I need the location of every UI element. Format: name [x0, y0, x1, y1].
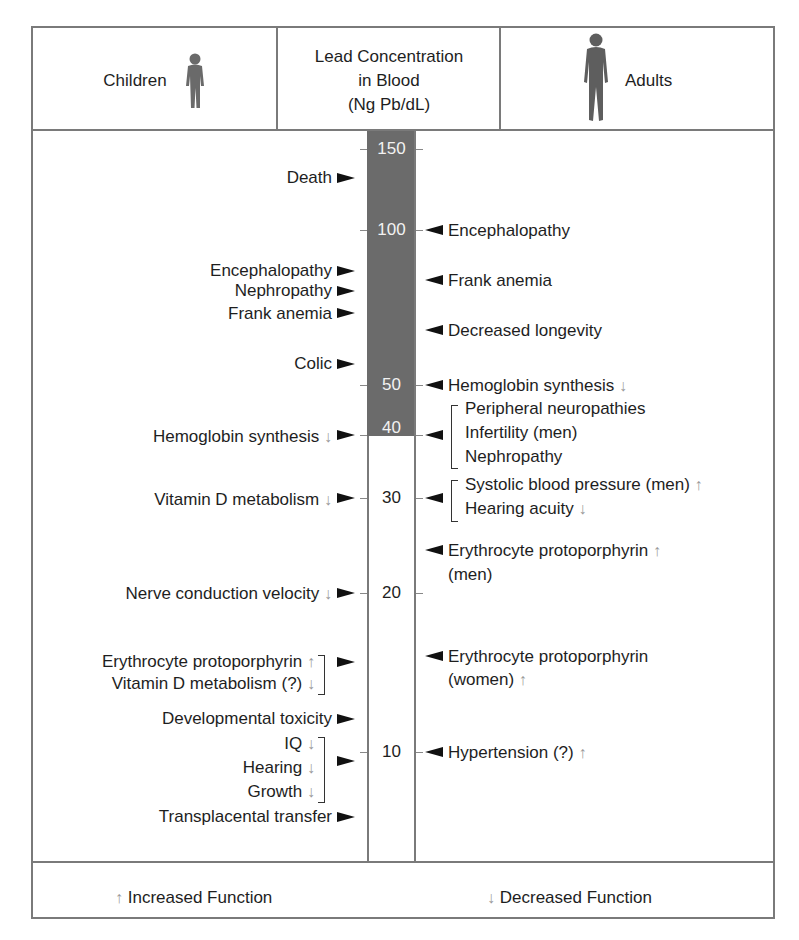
left-pointer-icon: [425, 275, 443, 285]
decrease-arrow-icon: ↓: [324, 491, 332, 508]
tick-label-50: 50: [367, 375, 416, 395]
adult-effect-frank-anemia: Frank anemia: [448, 270, 552, 291]
tick-label-100: 100: [367, 220, 416, 240]
right-pointer-icon: [337, 714, 355, 724]
child-effect-transplacental-transfer: Transplacental transfer: [159, 806, 332, 827]
tick-40-left: [360, 435, 367, 436]
footer-divider: [31, 861, 775, 863]
child-effect-nephropathy: Nephropathy: [235, 280, 332, 301]
adult-effect-nephropathy: Nephropathy: [465, 446, 562, 467]
left-pointer-icon: [425, 325, 443, 335]
child-effect-death: Death: [287, 167, 332, 188]
right-pointer-icon: [337, 266, 355, 276]
right-pointer-icon: [337, 657, 355, 667]
scale-header-line-1: Lead Concentration: [278, 46, 500, 68]
adult-effect-erythrocyte-pp-men-qualifier: (men): [448, 564, 492, 585]
left-pointer-icon: [425, 545, 443, 555]
tick-label-30: 30: [367, 488, 416, 508]
child-effect-erythrocyte-protoporphyrin: Erythrocyte protoporphyrin ↑: [102, 651, 315, 672]
right-pointer-icon: [337, 493, 355, 503]
scale-header-line-2: in Blood: [278, 70, 500, 92]
right-pointer-icon: [337, 308, 355, 318]
adult-effect-erythrocyte-pp-women-qualifier: (women) ↑: [448, 669, 527, 690]
group-bracket: [318, 737, 325, 803]
adults-header-label: Adults: [625, 70, 705, 92]
decrease-arrow-icon: ↓: [324, 428, 332, 445]
tick-40-right: [416, 435, 423, 436]
legend-decreased: ↓ Decreased Function: [487, 887, 652, 909]
adult-effect-erythrocyte-pp-women: Erythrocyte protoporphyrin: [448, 646, 648, 667]
increase-arrow-icon: ↑: [115, 889, 123, 906]
child-effect-iq: IQ ↓: [284, 733, 315, 754]
increase-arrow-icon: ↑: [519, 671, 527, 688]
increase-arrow-icon: ↑: [695, 476, 703, 493]
child-effect-nerve-conduction: Nerve conduction velocity ↓: [126, 583, 332, 604]
tick-label-20: 20: [367, 583, 416, 603]
child-silhouette-icon: [184, 52, 206, 110]
adult-effect-decreased-longevity: Decreased longevity: [448, 320, 602, 341]
left-pointer-icon: [425, 225, 443, 235]
child-effect-hearing: Hearing ↓: [243, 757, 315, 778]
child-effect-hemoglobin-synthesis: Hemoglobin synthesis ↓: [153, 426, 332, 447]
tick-10-right: [416, 752, 423, 753]
adult-effect-erythrocyte-pp-men: Erythrocyte protoporphyrin ↑: [448, 540, 661, 561]
right-pointer-icon: [337, 588, 355, 598]
adult-effect-encephalopathy: Encephalopathy: [448, 220, 570, 241]
child-effect-developmental-toxicity: Developmental toxicity: [162, 708, 332, 729]
decrease-arrow-icon: ↓: [307, 675, 315, 692]
right-pointer-icon: [337, 359, 355, 369]
adult-effect-peripheral-neuropathies: Peripheral neuropathies: [465, 398, 646, 419]
child-effect-vitamin-d-metabolism-q: Vitamin D metabolism (?) ↓: [112, 673, 315, 694]
legend-increased: ↑ Increased Function: [115, 887, 272, 909]
decrease-arrow-icon: ↓: [307, 735, 315, 752]
tick-20-right: [416, 593, 423, 594]
tick-30-right: [416, 498, 423, 499]
group-bracket: [451, 405, 458, 469]
children-header-label: Children: [80, 70, 190, 92]
left-pointer-icon: [425, 651, 443, 661]
right-pointer-icon: [337, 430, 355, 440]
adult-effect-systolic-bp: Systolic blood pressure (men) ↑: [465, 474, 703, 495]
left-pointer-icon: [425, 380, 443, 390]
right-pointer-icon: [337, 286, 355, 296]
tick-30-left: [360, 498, 367, 499]
adult-effect-hemoglobin-synthesis: Hemoglobin synthesis ↓: [448, 375, 627, 396]
left-pointer-icon: [425, 430, 443, 440]
decrease-arrow-icon: ↓: [307, 783, 315, 800]
child-effect-encephalopathy: Encephalopathy: [210, 260, 332, 281]
decrease-arrow-icon: ↓: [307, 759, 315, 776]
scale-header-line-3: (Ng Pb/dL): [278, 94, 500, 116]
right-pointer-icon: [337, 756, 355, 766]
right-pointer-icon: [337, 173, 355, 183]
tick-150-right: [416, 149, 423, 150]
decrease-arrow-icon: ↓: [324, 585, 332, 602]
adult-effect-hearing-acuity: Hearing acuity ↓: [465, 498, 586, 519]
tick-50-left: [360, 385, 367, 386]
left-pointer-icon: [425, 747, 443, 757]
right-pointer-icon: [337, 812, 355, 822]
tick-100-left: [360, 230, 367, 231]
group-bracket: [451, 480, 458, 522]
child-effect-growth: Growth ↓: [247, 781, 315, 802]
adult-effect-infertility-men: Infertility (men): [465, 422, 577, 443]
child-effect-colic: Colic: [294, 353, 332, 374]
tick-label-10: 10: [367, 742, 416, 762]
increase-arrow-icon: ↑: [578, 744, 586, 761]
increase-arrow-icon: ↑: [653, 542, 661, 559]
tick-20-left: [360, 593, 367, 594]
tick-label-150: 150: [367, 139, 416, 159]
decrease-arrow-icon: ↓: [619, 377, 627, 394]
adult-effect-hypertension: Hypertension (?) ↑: [448, 742, 586, 763]
increase-arrow-icon: ↑: [307, 653, 315, 670]
tick-10-left: [360, 752, 367, 753]
tick-50-right: [416, 385, 423, 386]
child-effect-vitamin-d-metabolism: Vitamin D metabolism ↓: [154, 489, 332, 510]
tick-label-40: 40: [367, 418, 416, 438]
tick-150-left: [360, 149, 367, 150]
tick-100-right: [416, 230, 423, 231]
adult-silhouette-icon: [582, 32, 610, 124]
decrease-arrow-icon: ↓: [487, 889, 495, 906]
group-bracket: [318, 655, 325, 695]
left-pointer-icon: [425, 493, 443, 503]
child-effect-frank-anemia: Frank anemia: [228, 303, 332, 324]
